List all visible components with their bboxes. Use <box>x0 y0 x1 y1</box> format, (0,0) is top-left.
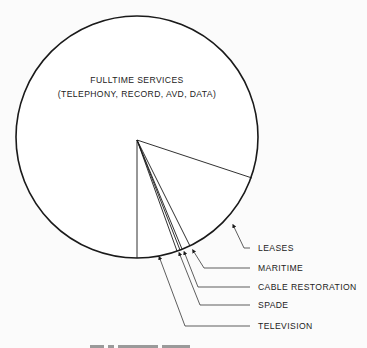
maritime-label: MARITIME <box>258 263 303 273</box>
spade-label: SPADE <box>258 300 289 310</box>
pie-chart: FULLTIME SERVICES (TELEPHONY, RECORD, AV… <box>0 0 367 348</box>
fulltime-services-sublabel: (TELEPHONY, RECORD, AVD, DATA) <box>58 89 216 99</box>
leases-label: LEASES <box>258 243 294 253</box>
leases-leader <box>234 227 250 248</box>
maritime-leader <box>194 252 250 268</box>
cable-restoration-leader <box>185 254 250 287</box>
television-leader <box>160 259 250 326</box>
cable-restoration-label: CABLE RESTORATION <box>258 282 357 292</box>
spade-leader <box>180 255 250 305</box>
television-label: TELEVISION <box>258 321 313 331</box>
fulltime-services-label: FULLTIME SERVICES <box>90 75 183 85</box>
